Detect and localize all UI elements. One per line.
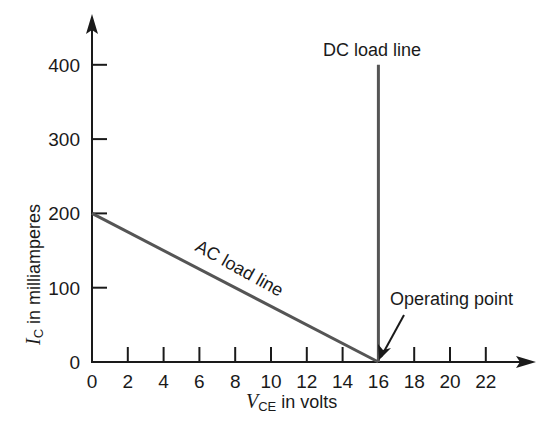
x-tick-label: 8	[230, 371, 241, 392]
x-tick-label: 10	[260, 371, 281, 392]
y-ticks: 0100200300400	[48, 55, 107, 373]
y-tick-label: 300	[48, 129, 80, 150]
x-tick-label: 16	[368, 371, 389, 392]
x-tick-label: 14	[332, 371, 354, 392]
y-tick-label: 400	[48, 55, 80, 76]
load-line-chart: 0100200300400 0246810121416182022 DC loa…	[0, 0, 549, 438]
x-tick-label: 4	[158, 371, 169, 392]
y-tick-label: 200	[48, 203, 80, 224]
x-tick-label: 0	[87, 371, 98, 392]
series	[92, 65, 378, 362]
ac-load-line	[92, 213, 378, 362]
x-tick-label: 22	[475, 371, 496, 392]
operating-point-label: Operating point	[390, 289, 513, 309]
x-tick-label: 2	[123, 371, 134, 392]
operating-point-arrowhead-icon	[378, 344, 391, 360]
x-ticks: 0246810121416182022	[87, 347, 497, 392]
x-axis-label: VCE in volts	[246, 390, 337, 414]
x-tick-label: 6	[194, 371, 205, 392]
y-tick-label: 100	[48, 278, 80, 299]
y-axis-label: IC in milliamperes	[22, 204, 46, 346]
x-tick-label: 18	[404, 371, 425, 392]
x-tick-label: 20	[439, 371, 460, 392]
dc-load-line-label: DC load line	[323, 40, 421, 60]
y-tick-label: 0	[69, 352, 80, 373]
x-tick-label: 12	[296, 371, 317, 392]
axes	[86, 14, 536, 368]
